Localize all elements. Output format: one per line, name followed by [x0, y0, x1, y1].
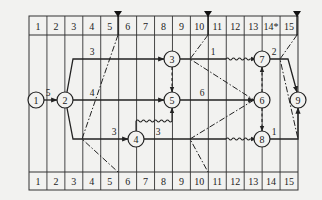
time-unit-label: 9	[179, 176, 184, 187]
time-unit-label: 12	[230, 21, 240, 32]
event-node-8: 8	[254, 131, 270, 147]
activity-durations: 534331621	[46, 47, 277, 137]
time-unit-label: 6	[125, 21, 130, 32]
time-unit-label: 7	[143, 21, 148, 32]
event-node-3: 3	[164, 51, 180, 67]
event-node-9: 9	[290, 92, 306, 108]
time-unit-label: 10	[194, 21, 204, 32]
activity-duration-label: 3	[156, 127, 161, 137]
event-node-4: 4	[128, 131, 144, 147]
node-number: 1	[34, 95, 39, 106]
wave-4-5	[136, 120, 172, 122]
node-number: 2	[63, 95, 68, 106]
activity-duration-label: 5	[46, 88, 51, 98]
event-node-6: 6	[254, 92, 270, 108]
node-number: 6	[260, 95, 265, 106]
diagram-canvas: 1234567891011121314*15 12345678910111213…	[0, 0, 322, 200]
wave-3-7	[226, 58, 256, 60]
arrow-2-3	[67, 59, 164, 92]
time-unit-label: 14*	[264, 21, 279, 32]
node-number: 8	[260, 134, 265, 145]
event-node-7: 7	[254, 51, 270, 67]
event-node-5: 5	[164, 92, 180, 108]
time-unit-label: 1	[35, 176, 40, 187]
time-unit-label: 9	[179, 21, 184, 32]
activity-duration-label: 3	[90, 47, 95, 57]
activity-duration-label: 2	[272, 47, 277, 57]
check-line-5	[82, 35, 118, 172]
event-node-2: 2	[57, 92, 73, 108]
time-unit-label: 4	[89, 21, 94, 32]
node-number: 4	[134, 134, 139, 145]
time-unit-label: 10	[194, 176, 204, 187]
time-unit-label: 7	[143, 176, 148, 187]
time-unit-label: 11	[212, 21, 222, 32]
top-time-scale: 1234567891011121314*15	[35, 21, 294, 32]
free-float-waves	[136, 58, 256, 140]
time-unit-label: 15	[284, 176, 294, 187]
node-number: 3	[170, 54, 175, 65]
time-unit-label: 3	[71, 21, 76, 32]
wave-4-8	[226, 138, 256, 140]
activity-duration-label: 6	[200, 88, 205, 98]
time-unit-label: 5	[107, 21, 112, 32]
time-unit-label: 3	[71, 176, 76, 187]
activity-duration-label: 1	[272, 127, 277, 137]
time-unit-label: 14	[266, 176, 276, 187]
event-nodes: 123456789	[28, 51, 306, 147]
time-unit-label: 2	[53, 21, 58, 32]
bottom-time-scale: 123456789101112131415	[35, 176, 294, 187]
time-unit-label: 4	[89, 176, 94, 187]
time-unit-label: 1	[35, 21, 40, 32]
time-unit-label: 13	[248, 176, 258, 187]
event-node-1: 1	[28, 92, 44, 108]
network-diagram: 1234567891011121314*15 12345678910111213…	[0, 0, 322, 200]
node-number: 7	[260, 54, 265, 65]
activity-duration-label: 1	[211, 47, 216, 57]
time-unit-label: 11	[212, 176, 222, 187]
time-unit-label: 6	[125, 176, 130, 187]
time-unit-label: 8	[161, 21, 166, 32]
time-unit-label: 15	[284, 21, 294, 32]
time-unit-label: 2	[53, 176, 58, 187]
node-number: 5	[170, 95, 175, 106]
time-unit-label: 12	[230, 176, 240, 187]
activity-duration-label: 4	[90, 88, 95, 98]
time-unit-label: 5	[107, 176, 112, 187]
time-unit-label: 13	[248, 21, 258, 32]
node-number: 9	[296, 95, 301, 106]
activity-duration-label: 3	[112, 127, 117, 137]
time-unit-label: 8	[161, 176, 166, 187]
